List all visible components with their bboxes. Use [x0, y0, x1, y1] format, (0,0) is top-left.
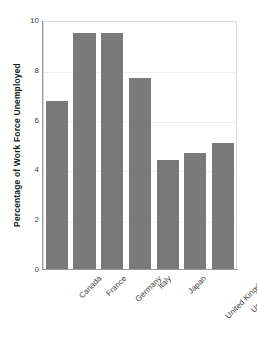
- bar-slot: [154, 21, 182, 270]
- bar-slot: [182, 21, 210, 270]
- bar-slot: [126, 21, 154, 270]
- bar: [101, 33, 123, 270]
- x-tick-label: Japan: [186, 274, 208, 296]
- x-tick-label: France: [104, 274, 128, 298]
- bars-layer: [43, 21, 237, 270]
- y-tick-label: 8: [24, 67, 39, 75]
- bar-slot: [43, 21, 71, 270]
- y-tick-label: 2: [24, 216, 39, 224]
- x-axis-tick-labels: CanadaFranceGermanyItalyJapanUnited King…: [43, 270, 237, 339]
- bar-slot: [71, 21, 99, 270]
- y-tick-label: 4: [24, 166, 39, 174]
- bar-slot: [209, 21, 237, 270]
- x-tick-label: United Kingdom: [224, 274, 257, 321]
- bar: [184, 153, 206, 270]
- bar-chart: Percentage of Work Force Unemployed 0246…: [0, 0, 257, 339]
- y-tick-label: 6: [24, 117, 39, 125]
- bar: [157, 160, 179, 270]
- bar: [129, 78, 151, 270]
- y-axis-title: Percentage of Work Force Unemployed: [10, 20, 24, 270]
- bar: [212, 143, 234, 270]
- x-tick-label: Germany: [134, 274, 164, 304]
- x-tick-label: Canada: [77, 274, 103, 300]
- y-tick-label: 10: [24, 17, 39, 25]
- y-tick-label: 0: [24, 266, 39, 274]
- bar: [46, 101, 68, 270]
- bar: [73, 33, 95, 270]
- y-axis-tick-labels: 0246810: [24, 0, 39, 339]
- bar-slot: [98, 21, 126, 270]
